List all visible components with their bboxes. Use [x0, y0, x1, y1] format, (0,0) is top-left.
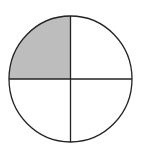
fraction-circle-svg: [0, 0, 144, 144]
fraction-circle-diagram: [0, 0, 144, 144]
